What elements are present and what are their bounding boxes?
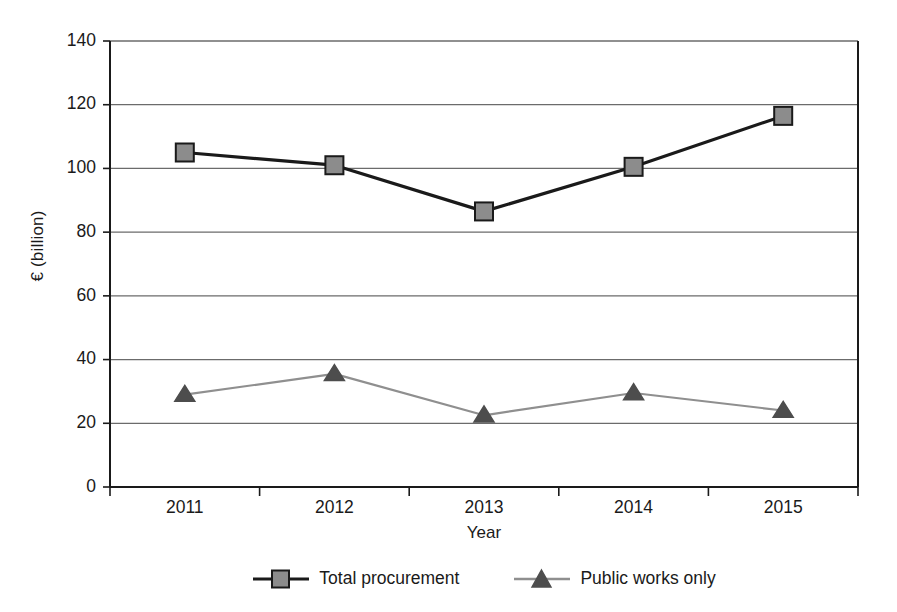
- x-axis-tick-labels: 2011 2012 2013 2014 2015: [110, 493, 858, 521]
- x-tick-label: 2014: [559, 493, 709, 521]
- data-point-marker: [625, 158, 643, 176]
- data-point-marker: [475, 202, 493, 220]
- x-tick-label: 2013: [409, 493, 559, 521]
- x-tick-label: 2011: [110, 493, 260, 521]
- chart-figure: € (billion) 140 120 100 80 60 40 20 0 20…: [0, 0, 897, 612]
- triangle-marker-icon: [513, 568, 571, 590]
- x-tick-label: 2012: [260, 493, 410, 521]
- x-tick-label: 2015: [708, 493, 858, 521]
- legend-label: Total procurement: [319, 570, 459, 588]
- square-marker-icon: [252, 568, 310, 590]
- data-point-marker: [774, 107, 792, 125]
- legend-entry-total-procurement: Total procurement: [252, 568, 459, 590]
- data-point-marker: [325, 156, 343, 174]
- legend-entry-public-works-only: Public works only: [513, 568, 715, 590]
- data-point-marker: [176, 144, 194, 162]
- x-axis-label: Year: [110, 523, 858, 543]
- legend-label: Public works only: [580, 570, 715, 588]
- chart-legend: Total procurement Public works only: [110, 562, 858, 596]
